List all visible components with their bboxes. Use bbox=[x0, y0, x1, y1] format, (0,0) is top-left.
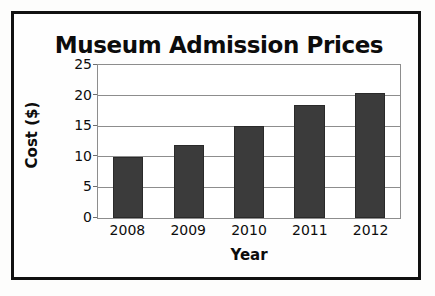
bar-2010 bbox=[234, 126, 264, 218]
y-axis-tick-label: 5 bbox=[62, 178, 92, 194]
x-axis-title: Year bbox=[97, 246, 401, 264]
x-axis-tick-label: 2010 bbox=[219, 222, 280, 238]
bar-series bbox=[98, 65, 400, 218]
y-axis-tick-label: 0 bbox=[62, 209, 92, 225]
x-axis-tick-label: 2011 bbox=[279, 222, 340, 238]
y-axis-tick-label: 20 bbox=[62, 87, 92, 103]
x-axis-tick-label: 2008 bbox=[97, 222, 158, 238]
y-axis-title: Cost ($) bbox=[23, 95, 41, 175]
x-axis-tick-label: 2009 bbox=[158, 222, 219, 238]
chart-title: Museum Admission Prices bbox=[14, 32, 424, 58]
y-axis-tick-label: 10 bbox=[62, 148, 92, 164]
x-axis-tick-label: 2012 bbox=[340, 222, 401, 238]
bar-slot bbox=[158, 65, 218, 218]
y-axis-tick-group: 0510152025 bbox=[59, 64, 92, 219]
bar-slot bbox=[279, 65, 339, 218]
y-axis-tick-label: 15 bbox=[62, 117, 92, 133]
bar-2009 bbox=[174, 145, 204, 218]
bar-slot bbox=[219, 65, 279, 218]
y-axis-tick-label: 25 bbox=[62, 56, 92, 72]
bar-slot bbox=[98, 65, 158, 218]
bar-2008 bbox=[113, 157, 143, 218]
chart-outer-frame: Museum Admission Prices Cost ($) 0510152… bbox=[11, 11, 421, 280]
bar-slot bbox=[340, 65, 400, 218]
x-axis-tick-group: 20082009201020112012 bbox=[97, 222, 401, 238]
chart-figure: Museum Admission Prices Cost ($) 0510152… bbox=[0, 0, 435, 296]
bar-2011 bbox=[294, 105, 324, 218]
plot-area bbox=[97, 64, 401, 219]
bar-2012 bbox=[355, 93, 385, 218]
